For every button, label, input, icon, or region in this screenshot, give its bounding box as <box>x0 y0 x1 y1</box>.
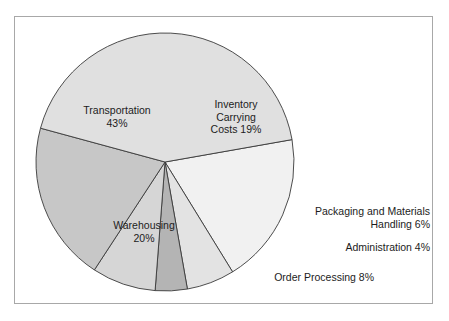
slice-label-transportation: Transportation 43% <box>58 104 176 129</box>
slice-label-warehousing: Warehousing 20% <box>88 219 200 244</box>
slice-label-packaging-and-materials-handling: Packaging and Materials Handling 6% <box>272 205 430 230</box>
slice-label-administration: Administration 4% <box>256 241 430 254</box>
pie-chart-figure: Transportation 43% Inventory Carrying Co… <box>0 0 449 321</box>
slice-label-inventory-carrying-costs: Inventory Carrying Costs 19% <box>186 98 286 136</box>
slice-label-order-processing: Order Processing 8% <box>210 271 374 284</box>
